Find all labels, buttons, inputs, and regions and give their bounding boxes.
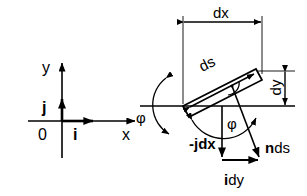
- n-ds-label-ds: ds: [274, 139, 290, 156]
- diagram-canvas: y j 0 i x dx dy ds φ φ -jdx nds idy: [0, 0, 307, 196]
- dy-label: dy: [268, 80, 283, 96]
- diagram-vector-graphics: [0, 0, 307, 196]
- phi-left-label: φ: [136, 110, 146, 125]
- origin-label: 0: [38, 127, 47, 143]
- dx-label: dx: [213, 5, 229, 20]
- n-ds-label-bold-n: n: [265, 139, 274, 156]
- i-dy-label-dy: dy: [228, 171, 244, 188]
- phi-center-label: φ: [227, 116, 237, 131]
- unit-vector-j-label: j: [42, 100, 46, 116]
- n-ds-label: nds: [265, 140, 290, 155]
- y-axis-label: y: [42, 60, 50, 76]
- i-dy-label: idy: [224, 172, 244, 187]
- x-axis-label: x: [122, 127, 130, 143]
- minus-j-dx-label: -jdx: [189, 136, 216, 151]
- ds-dimension-arrow: [190, 74, 254, 107]
- unit-vector-i-label: i: [73, 127, 77, 143]
